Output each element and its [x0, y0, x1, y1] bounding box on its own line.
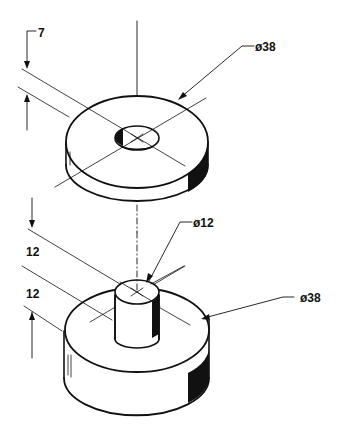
washer — [22, 21, 208, 232]
stepped-pin — [64, 232, 209, 415]
pin-height-label: 12 — [26, 245, 40, 259]
washer-diameter-leader — [178, 46, 254, 100]
base-diameter-label: ø38 — [300, 291, 321, 305]
base-diameter-leader — [201, 297, 294, 320]
washer-diameter-label: ø38 — [255, 40, 276, 54]
washer-thickness-label: 7 — [38, 26, 45, 40]
pin-diameter-label: ø12 — [193, 216, 214, 230]
washer-thickness-dimension — [18, 31, 69, 130]
base-height-label: 12 — [26, 287, 40, 301]
isometric-drawing: 7 ø38 ø12 12 12 ø38 — [0, 0, 347, 440]
